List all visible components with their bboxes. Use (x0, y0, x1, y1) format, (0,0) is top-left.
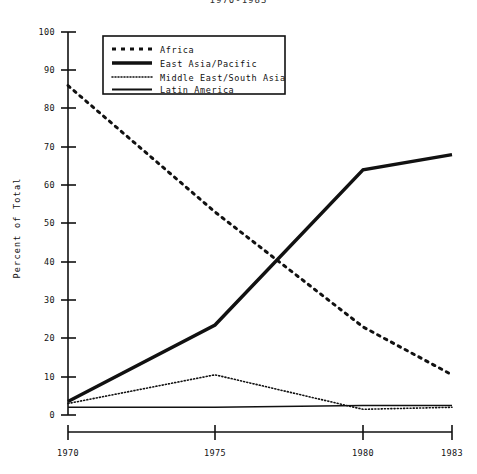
legend-label-middle-east-south-asia: Middle East/South Asia (160, 73, 286, 83)
legend-label-latin-america: Latin America (160, 85, 234, 95)
chart-svg: 100 90 80 70 60 50 40 30 20 10 0 Percent… (0, 0, 477, 474)
y-tick-label-10: 10 (44, 372, 55, 382)
y-tick-label-50: 50 (44, 218, 55, 228)
y-tick-label-0: 0 (49, 410, 55, 420)
legend-label-africa: Africa (160, 45, 194, 55)
y-tick-label-100: 100 (38, 27, 55, 37)
legend-label-east-asia-pacific: East Asia/Pacific (160, 59, 257, 69)
series-line-middle-east-south-asia (68, 375, 452, 410)
series-line-east-asia-pacific (68, 155, 452, 402)
series-line-latin-america (68, 405, 452, 407)
x-tick-label-1970: 1970 (57, 448, 79, 458)
y-tick-label-60: 60 (44, 180, 55, 190)
y-tick-label-90: 90 (44, 65, 55, 75)
y-tick-label-20: 20 (44, 333, 55, 343)
x-tick-label-1983: 1983 (441, 448, 463, 458)
y-axis-title: Percent of Total (12, 177, 22, 278)
x-tick-label-1975: 1975 (204, 448, 226, 458)
chart-legend: Africa East Asia/Pacific Middle East/Sou… (103, 36, 286, 95)
series-line-africa (68, 86, 452, 375)
y-tick-label-70: 70 (44, 142, 55, 152)
x-tick-label-1980: 1980 (352, 448, 374, 458)
y-tick-label-80: 80 (44, 103, 55, 113)
y-tick-label-40: 40 (44, 257, 55, 267)
chart-container: 1970-1983 100 90 80 70 60 50 40 30 20 (0, 0, 477, 474)
y-tick-label-30: 30 (44, 295, 55, 305)
